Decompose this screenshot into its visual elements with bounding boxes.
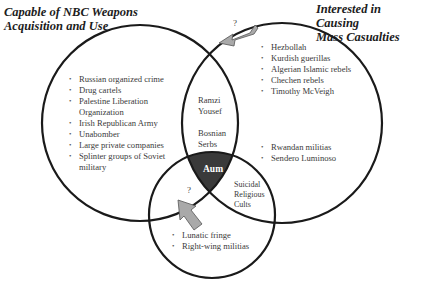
list-item: Timothy McVeigh — [261, 86, 361, 97]
list-item: Palestine Liberation Organization — [69, 96, 179, 118]
label-ramzi-yousef: Ramzi Yousef — [198, 95, 226, 117]
list-item: Kurdish guerillas — [261, 53, 361, 64]
label-aum: Aum — [203, 164, 223, 174]
list-item: Drug cartels — [69, 85, 179, 96]
list-item: Splinter groups of Soviet military — [69, 151, 179, 173]
label-suicidal-religious-cults: Suicidal Religious Cults — [234, 180, 274, 210]
list-item: Large private companies — [69, 140, 179, 151]
question-mark-upper: ? — [233, 18, 237, 28]
list-item: Right-wing militias — [172, 241, 272, 252]
list-mass-casualties-upper: Hezbollah Kurdish guerillas Algerian Isl… — [261, 42, 361, 97]
list-item: Russian organized crime — [69, 74, 179, 85]
list-mass-casualties-lower: Rwandan militias Sendero Luminoso — [261, 142, 361, 164]
list-bottom-only: Lunatic fringe Right-wing militias — [172, 230, 272, 252]
list-item: Hezbollah — [261, 42, 361, 53]
title-nbc-capable: Capable of NBC Weapons Acquisition and U… — [4, 5, 138, 33]
title-line: Acquisition and Use — [4, 19, 138, 33]
list-nbc-only: Russian organized crime Drug cartels Pal… — [69, 74, 179, 173]
label-bosnian-serbs: Bosnian Serbs — [198, 128, 230, 150]
title-line: Capable of NBC Weapons — [4, 5, 138, 19]
list-item: Rwandan militias — [261, 142, 361, 153]
list-item: Sendero Luminoso — [261, 153, 361, 164]
arrow-lower-icon — [178, 200, 202, 230]
title-mass-casualties: Interested in Causing Mass Casualties — [316, 2, 422, 44]
list-item: Irish Republican Army — [69, 118, 179, 129]
title-line: Interested in Causing — [316, 2, 422, 30]
question-mark-lower: ? — [187, 185, 191, 195]
list-item: Lunatic fringe — [172, 230, 272, 241]
list-item: Unabomber — [69, 129, 179, 140]
list-item: Chechen rebels — [261, 75, 361, 86]
list-item: Algerian Islamic rebels — [261, 64, 361, 75]
